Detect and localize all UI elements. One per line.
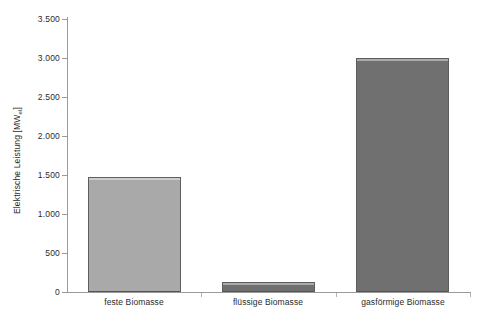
bar: [222, 282, 315, 292]
y-axis-tick: [62, 19, 67, 20]
y-axis-tick-label: 2.500: [2, 92, 60, 102]
y-axis-tick-label: 3.000: [2, 53, 60, 63]
bar-fill: [88, 177, 181, 292]
y-axis-tick-label: 1.000: [2, 209, 60, 219]
y-axis-tick-labels: 05001.0001.5002.0002.5003.0003.500: [0, 0, 60, 321]
y-axis-line: [67, 17, 68, 293]
y-axis-tick: [62, 214, 67, 215]
y-axis-tick: [62, 136, 67, 137]
y-axis-tick: [62, 292, 67, 293]
bar-chart: Elektrische Leistung [MWel] 05001.0001.5…: [0, 0, 489, 321]
bar: [356, 58, 449, 292]
y-axis-tick-label: 3.500: [2, 14, 60, 24]
y-axis-tick: [62, 175, 67, 176]
y-axis-tick: [62, 58, 67, 59]
x-axis-category-label: flüssige Biomasse: [201, 297, 335, 307]
y-axis-tick-label: 1.500: [2, 170, 60, 180]
bar-fill: [356, 58, 449, 292]
x-axis-separator-tick: [470, 293, 471, 297]
bar-fill: [222, 282, 315, 292]
bar: [88, 177, 181, 292]
x-axis-line: [67, 292, 471, 293]
y-axis-tick: [62, 253, 67, 254]
y-axis-tick-label: 500: [2, 248, 60, 258]
y-axis-tick-label: 2.000: [2, 131, 60, 141]
x-axis-category-label: feste Biomasse: [67, 297, 201, 307]
x-axis-category-label: gasförmige Biomasse: [336, 297, 470, 307]
y-axis-tick-label: 0: [2, 287, 60, 297]
y-axis-tick: [62, 97, 67, 98]
